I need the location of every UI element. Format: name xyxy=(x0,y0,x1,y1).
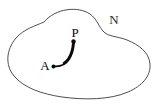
label-region-n: N xyxy=(109,12,119,27)
point-a-dot xyxy=(52,65,56,69)
diagram-svg: A P N xyxy=(0,0,159,104)
region-outline-n xyxy=(8,9,150,99)
curve-a-to-p-thick-segment xyxy=(64,43,73,64)
label-point-a: A xyxy=(40,58,50,73)
label-point-p: P xyxy=(71,25,78,40)
figure-canvas: A P N xyxy=(0,0,159,104)
